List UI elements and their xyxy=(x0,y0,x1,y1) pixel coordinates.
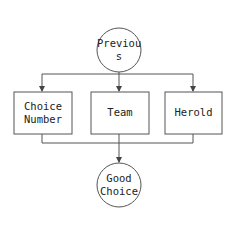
choice-number-label-line2: Number xyxy=(14,113,72,126)
choice-number-label: Choice Number xyxy=(14,100,72,126)
previous-label: Previou s xyxy=(97,37,141,63)
herold-label: Herold xyxy=(165,106,222,119)
choice-number-label-line1: Choice xyxy=(14,100,72,113)
team-label: Team xyxy=(91,106,149,119)
previous-label-line1: Previou xyxy=(97,37,141,50)
good-choice-label-line1: Good xyxy=(97,172,141,185)
herold-label-line1: Herold xyxy=(165,106,222,119)
good-choice-label-line2: Choice xyxy=(97,185,141,198)
previous-label-line2: s xyxy=(97,50,141,63)
team-label-line1: Team xyxy=(91,106,149,119)
good-choice-label: Good Choice xyxy=(97,172,141,198)
